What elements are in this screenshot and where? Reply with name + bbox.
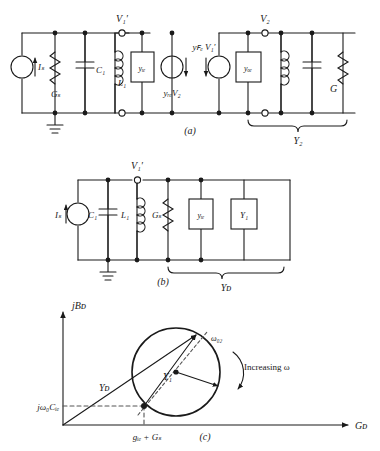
label-b-c1: C₁ — [88, 210, 97, 220]
current-source-is — [11, 56, 33, 78]
caption-b: (b) — [157, 276, 169, 288]
current-source-is-b — [67, 203, 89, 225]
panel-b — [66, 180, 290, 280]
label-c-w02: ω₀₂ — [211, 334, 222, 343]
rotation-arrow — [233, 352, 244, 389]
label-b-y1: Y₁ — [240, 210, 248, 220]
capacitor-c1-b — [99, 180, 117, 260]
panel-a — [11, 33, 355, 133]
label-a-yfe: yꜰₑ V₁′ — [191, 42, 216, 52]
panel-c — [63, 312, 348, 425]
label-a-node-v2: V₂ — [260, 13, 270, 24]
inductor-a2 — [281, 51, 289, 85]
label-c-yd: Yᴅ — [99, 382, 110, 393]
brace-yd — [168, 267, 284, 279]
label-b-gs: Gₛ — [152, 210, 162, 220]
label-a-node-v1p: V₁′ — [116, 13, 129, 24]
caption-a: (a) — [184, 125, 196, 137]
capacitor-c1 — [76, 33, 94, 113]
label-c-increasing-omega: Increasing ω — [244, 362, 290, 372]
radius-line — [176, 372, 218, 386]
label-a-is: Iₛ — [37, 62, 45, 72]
label-a-gs: Gₛ — [51, 89, 61, 99]
label-c-axis-y: jBᴅ — [70, 300, 86, 311]
inductor-l1-b — [137, 198, 145, 232]
label-a-l1: L₁ — [117, 78, 126, 88]
figure-root: V₁′ V₂ Iₛ Gₛ C₁ L₁ yᵢₑ yᵣₑV₂ yꜰₑ V₁′ yₒₑ… — [0, 0, 380, 451]
dep-source-yfe — [208, 56, 230, 78]
label-b-brace-yd: Yᴅ — [221, 282, 232, 293]
label-b-yie: yᵢₑ — [197, 211, 205, 220]
label-c-tick-x: gᵢₑ + Gₛ — [133, 432, 162, 442]
label-c-axis-x: Gᴅ — [355, 420, 367, 431]
vector-yd — [63, 335, 196, 425]
label-c-tick-y: jω₀Cᵢₑ — [36, 402, 59, 412]
label-a-brace-y2: Y₂ — [293, 135, 303, 146]
label-a-c1: C₁ — [96, 65, 105, 75]
chord-w02 — [138, 332, 207, 415]
ground-symbol-a — [47, 113, 63, 133]
caption-c: (c) — [199, 431, 211, 443]
label-a-yre: yᵣₑV₂ — [162, 88, 180, 98]
label-a-g: G — [330, 83, 337, 94]
label-b-is: Iₛ — [54, 210, 62, 220]
label-a-yie: yᵢₑ — [138, 64, 146, 73]
ground-symbol-b — [100, 260, 116, 280]
label-a-yoe: yₒₑ — [243, 64, 252, 73]
figure-svg: V₁′ V₂ Iₛ Gₛ C₁ L₁ yᵢₑ yᵣₑV₂ yꜰₑ V₁′ yₒₑ… — [0, 0, 380, 451]
label-c-y1: Y₁ — [163, 371, 172, 382]
label-b-node-v1p: V₁′ — [131, 160, 144, 171]
capacitor-a2 — [303, 33, 321, 113]
brace-y2 — [248, 120, 347, 132]
label-b-l1: L₁ — [120, 210, 129, 220]
